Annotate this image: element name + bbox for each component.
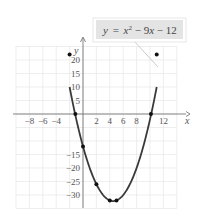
y-tick-label: −25 [66,177,81,187]
y-tick-label: 15 [71,69,81,79]
y-tick-label: −30 [66,190,81,200]
data-point [149,112,153,116]
x-tick-label: 6 [121,116,126,126]
data-point [115,198,119,202]
data-point [73,112,77,116]
x-tick-label: 12 [159,116,168,126]
equation-text: y = x2 − 9x − 12 [102,24,177,36]
y-axis-label: y [73,45,79,56]
x-axis-label: x [184,115,190,126]
data-point [108,198,112,202]
x-tick-label: −8 [25,116,35,126]
x-tick-label: −4 [51,116,61,126]
x-tick-label: 2 [94,116,99,126]
x-tick-label: 8 [134,116,139,126]
data-point [68,53,72,57]
parabola-chart: −8−6−42468122015105−15−20−25−30 y = x2 −… [0,0,200,222]
y-tick-label: 20 [71,55,81,65]
data-point [81,144,85,148]
y-tick-label: −20 [66,163,81,173]
x-tick-label: −6 [38,116,48,126]
leader-line [134,41,158,67]
y-tick-label: 5 [76,96,81,106]
y-tick-label: 10 [71,82,81,92]
x-tick-label: 4 [108,116,113,126]
y-tick-label: −15 [66,150,81,160]
data-point [94,182,98,186]
data-point [155,53,159,57]
